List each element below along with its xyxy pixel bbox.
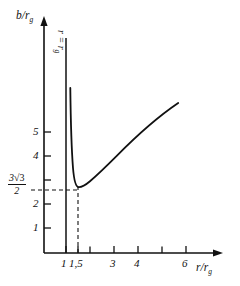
x-tick-label-4: 4 bbox=[134, 258, 140, 269]
x-tick-label-1: 1 bbox=[61, 258, 67, 269]
y-tick-label-4: 4 bbox=[33, 150, 39, 161]
x-tick-label-1-5: 1,5 bbox=[69, 258, 83, 269]
minimum-value-numerator: 3√3 bbox=[8, 172, 26, 185]
y-axis-title-text: b/r bbox=[16, 9, 29, 21]
x-axis-arrow-icon bbox=[213, 249, 223, 256]
x-tick-marks bbox=[66, 246, 186, 253]
asymptote-annotation-text: r = r bbox=[56, 30, 67, 50]
minimum-value-label: 3√3 2 bbox=[8, 172, 26, 196]
plot-canvas bbox=[0, 0, 240, 286]
x-axis-title-subscript: g bbox=[208, 267, 212, 276]
figure-container: b/rg r/rg r = rg 3√3 2 1 1,5 3 4 6 1 2 4… bbox=[0, 0, 240, 286]
y-tick-label-2: 2 bbox=[33, 198, 39, 209]
y-axis-title: b/rg bbox=[16, 10, 33, 22]
y-tick-label-1: 1 bbox=[33, 222, 39, 233]
x-axis-title: r/rg bbox=[196, 262, 212, 274]
y-tick-label-5: 5 bbox=[33, 126, 39, 137]
minimum-value-denominator: 2 bbox=[8, 185, 26, 197]
y-axis-title-subscript: g bbox=[29, 15, 33, 24]
y-tick-marks bbox=[44, 132, 51, 228]
y-axis-arrow-icon bbox=[40, 16, 47, 26]
minimum-value-radical: √3 bbox=[14, 172, 25, 183]
x-axis-title-text: r/r bbox=[196, 261, 208, 273]
x-tick-label-3: 3 bbox=[110, 258, 116, 269]
asymptote-annotation: r = rg bbox=[56, 30, 66, 53]
x-tick-label-6: 6 bbox=[182, 258, 188, 269]
impact-parameter-curve bbox=[70, 88, 178, 187]
asymptote-annotation-subscript: g bbox=[54, 50, 63, 54]
